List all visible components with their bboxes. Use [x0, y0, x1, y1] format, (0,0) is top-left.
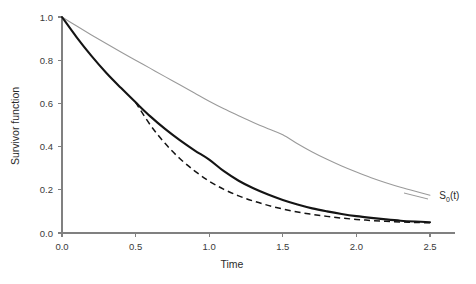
x-tick-label: 0.0: [55, 241, 68, 252]
x-tick-label: 2.0: [350, 241, 363, 252]
series-annotation-label: S0(t): [439, 190, 459, 203]
series-curve-baseline-survivor: [62, 17, 430, 195]
y-axis-ticks: 0.00.20.40.60.81.0: [40, 12, 62, 239]
x-tick-label: 1.5: [276, 241, 289, 252]
y-tick-label: 0.4: [40, 141, 53, 152]
x-tick-label: 1.0: [203, 241, 216, 252]
y-tick-label: 0.6: [40, 98, 53, 109]
data-series-group: [62, 17, 430, 223]
x-axis-title: Time: [221, 258, 244, 270]
y-axis-title: Survivor function: [9, 87, 21, 165]
y-tick-label: 0.0: [40, 228, 53, 239]
series-annotation-group: S0(t): [404, 190, 459, 203]
y-tick-label: 1.0: [40, 12, 53, 23]
x-tick-label: 2.5: [423, 241, 436, 252]
survivor-function-chart: 0.00.51.01.52.02.5 0.00.20.40.60.81.0 S0…: [0, 0, 476, 284]
x-axis-ticks: 0.00.51.01.52.02.5: [55, 233, 436, 252]
series-curve-treatment-survivor-dashed: [136, 102, 430, 223]
x-tick-label: 0.5: [129, 241, 142, 252]
y-tick-label: 0.8: [40, 55, 53, 66]
y-tick-label: 0.2: [40, 184, 53, 195]
annotation-suffix: (t): [450, 190, 459, 201]
plot-area: 0.00.51.01.52.02.5 0.00.20.40.60.81.0 S0…: [0, 0, 476, 284]
